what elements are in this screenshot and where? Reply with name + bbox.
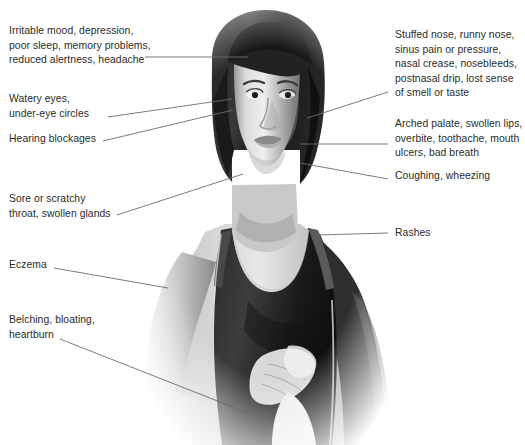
label-arched-palate: Arched palate, swollen lips, overbite, t… <box>395 117 523 161</box>
leader-line-coughing <box>300 163 388 179</box>
label-stuffed-nose: Stuffed nose, runny nose, sinus pain or … <box>395 28 523 101</box>
leader-line-belching <box>60 339 248 413</box>
label-irritable-mood: Irritable mood, depression, poor sleep, … <box>9 24 169 68</box>
label-eczema: Eczema <box>9 258 129 273</box>
label-belching-bloating: Belching, bloating, heartburn <box>9 313 149 342</box>
label-sore-throat: Sore or scratchy throat, swollen glands <box>9 192 169 221</box>
label-rashes: Rashes <box>395 226 505 241</box>
diagram-canvas: Irritable mood, depression, poor sleep, … <box>0 0 525 445</box>
label-coughing-wheezing: Coughing, wheezing <box>395 169 523 184</box>
leader-line-stuffed-nose <box>307 92 388 118</box>
label-watery-eyes: Watery eyes, under-eye circles <box>9 92 159 121</box>
label-hearing-blockages: Hearing blockages <box>9 132 159 147</box>
leader-line-rashes <box>318 233 388 235</box>
